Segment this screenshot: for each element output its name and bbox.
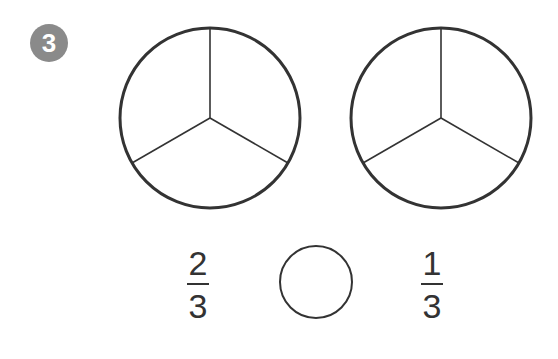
left-numerator: 2 [178,246,218,280]
fraction-circles [0,0,558,359]
right-numerator: 1 [412,246,452,280]
left-denominator: 3 [178,289,218,323]
right-denominator: 3 [412,289,452,323]
comparison-answer-circle[interactable] [280,246,352,318]
left-fraction: 2 3 [178,246,218,323]
fraction-bar [421,283,443,285]
fraction-bar [187,283,209,285]
left-circle-divided-thirds [120,28,300,208]
right-fraction: 1 3 [412,246,452,323]
right-circle-divided-thirds [351,28,531,208]
